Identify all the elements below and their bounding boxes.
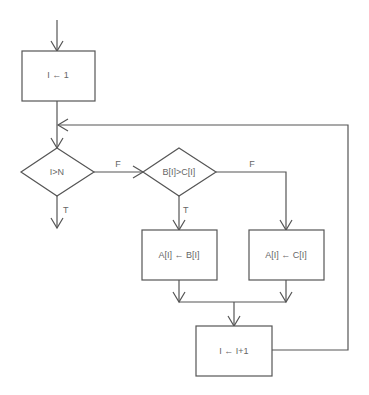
decision-b-gt-c: B[I]>C[I] [143, 148, 216, 196]
cond2-true-label: T [183, 205, 189, 215]
cond1-false-arrow: F [94, 159, 143, 178]
cond2-false-label: F [249, 159, 255, 169]
assign-c-box: A[I] ← C[I] [249, 230, 324, 280]
assign-b-box: A[I] ← B[I] [142, 230, 217, 280]
decision-b-gt-c-label: B[I]>C[I] [163, 167, 196, 177]
decision-i-gt-n-label: I>N [50, 167, 64, 177]
entry-arrow [51, 20, 63, 51]
cond2-false-arrow: F [216, 159, 292, 230]
init-box-label: I ← 1 [47, 70, 69, 80]
increment-box-label: I ← I+1 [219, 346, 248, 356]
decision-i-gt-n: I>N [21, 148, 94, 196]
flowchart-canvas: I ← 1 I>N F T B[I]>C[I] F [0, 0, 369, 395]
assign-b-box-label: A[I] ← B[I] [158, 250, 199, 260]
increment-box: I ← I+1 [196, 326, 272, 376]
cond1-true-label: T [63, 205, 69, 215]
init-box: I ← 1 [22, 51, 95, 101]
cond1-true-arrow: T [51, 196, 69, 228]
merge-arrows [173, 280, 292, 326]
cond2-true-arrow: T [173, 196, 189, 230]
cond1-false-label: F [115, 159, 121, 169]
assign-c-box-label: A[I] ← C[I] [265, 250, 307, 260]
